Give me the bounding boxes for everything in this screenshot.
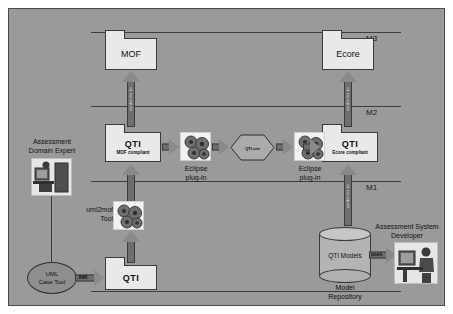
eclipse-plugin-1-caption: Eclipse plug-in [174,164,218,182]
package-mof: MOF [105,38,157,70]
package-qti-bottom-title: QTI [123,273,140,283]
gear-cluster-icon [114,202,145,231]
diagram-canvas: M3 M2 M1 MOF Ecore conforms to conforms … [8,8,445,306]
person-at-desk-icon [32,159,72,196]
gear-cluster-icon [181,133,212,162]
level-label-m2: M2 [366,108,378,117]
assessment-domain-expert-avatar [31,158,72,196]
person-at-desk-icon [395,243,438,284]
assessment-domain-expert-caption: Assessment Domain Expert [15,137,89,155]
conforms-to-label: conforms to [128,87,133,111]
arrow-qti-to-plugin1 [162,139,179,155]
uml2mof-tool-caption: uml2mof Tool [69,205,113,223]
model-repository: QTI Models [319,227,371,283]
model-repository-line1: Model [319,283,371,292]
package-qti-ecore-subtitle: Ecore compliant [332,150,368,155]
cylinder-top [319,227,371,241]
assessment-system-developer-avatar [394,242,438,284]
edge-label-xmi: .XMI [77,274,87,280]
uml-case-tool: UML Case Tool [27,262,77,294]
cylinder-bottom [319,269,371,283]
arrow-plugin1-to-xmi [212,139,229,155]
conforms-to-label: conforms to [345,87,350,111]
package-ecore-title: Ecore [336,49,360,59]
package-qti-mof-subtitle: MOF compliant [116,150,149,155]
eclipse-plugin-2-line1: Eclipse [288,164,332,173]
package-mof-title: MOF [121,49,141,59]
assessment-domain-expert-line2: Domain Expert [15,146,89,155]
package-qti-bottom: QTI [105,265,157,290]
eclipse-plugin-1-icon-box [180,132,211,161]
artifact-qti-xmi-label: QTI.xmi [245,145,260,150]
conforms-to-arrow-qti-ecore: conforms to [338,164,358,226]
model-repository-caption: Model Repository [319,283,371,301]
uml2mof-tool-line1: uml2mof [69,205,113,214]
conforms-to-label: conforms to [345,184,350,208]
uml2mof-tool-line2: Tool [69,214,113,223]
package-tab-icon [105,124,125,133]
uml-case-tool-line1: UML [39,270,66,278]
assessment-system-developer-caption: Assessment System Developer [371,222,443,240]
eclipse-plugin-1-line1: Eclipse [174,164,218,173]
level-label-m1: M1 [366,183,378,192]
assessment-system-developer-line2: Developer [371,231,443,240]
arrow-plugin2-to-qti-ecore [303,139,320,155]
package-ecore: Ecore [322,38,374,70]
eclipse-plugin-2-caption: Eclipse plug-in [288,164,332,182]
package-qti-ecore-title: QTI [342,139,359,149]
conforms-to-arrow-qti-mof [121,164,141,202]
package-tab-icon [322,124,342,133]
artifact-qti-xmi: QTI.xmi [230,134,275,161]
uml2mof-tool-icon-box [113,201,144,230]
conforms-to-arrow-mof: conforms to [121,71,141,127]
conforms-to-arrow-ecore: conforms to [338,71,358,127]
package-qti-mof-title: QTI [125,139,142,149]
package-qti-mof-compliant: QTI MOF compliant [105,132,161,162]
assessment-system-developer-line1: Assessment System [371,222,443,231]
assessment-domain-expert-line1: Assessment [15,137,89,146]
package-tab-icon [105,30,125,39]
edge-label-uses: uses [371,251,382,257]
connector-expert-to-uml-case-tool [51,196,52,262]
package-qti-ecore-compliant: QTI Ecore compliant [322,132,378,162]
package-tab-icon [322,30,342,39]
model-repository-inner-label: QTI Models [319,252,371,259]
arrow-xmi-to-plugin2 [276,139,293,155]
eclipse-plugin-2-line2: plug-in [288,173,332,182]
uml-case-tool-line2: Case Tool [39,278,66,286]
level-line-m3 [91,32,401,33]
eclipse-plugin-1-line2: plug-in [174,173,218,182]
package-tab-icon [105,257,125,266]
model-repository-line2: Repository [319,292,371,301]
